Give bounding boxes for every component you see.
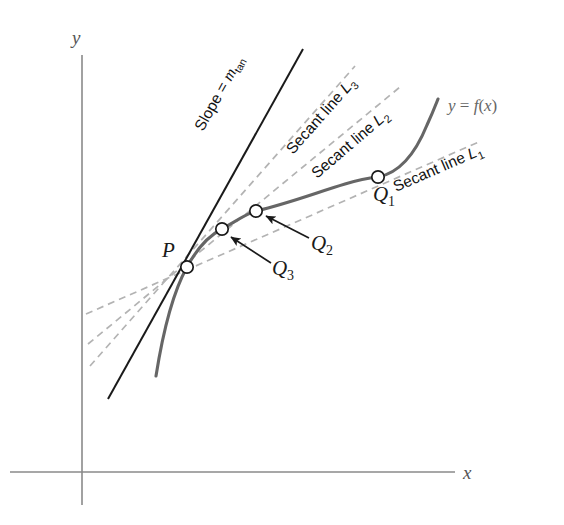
axes-group: y x: [10, 27, 472, 505]
point-Q2-letter: Q: [311, 231, 326, 255]
point-labels-group: P Q 1 Q 2 Q 3: [161, 182, 395, 283]
leader-arrows-group: [231, 216, 309, 263]
point-Q3-marker: [216, 223, 228, 235]
slope-label-group: Slope = mtan: [191, 52, 249, 135]
slope-label-text: Slope = mtan: [191, 52, 249, 135]
x-axis-label: x: [462, 462, 472, 483]
point-Q3-subscript: 3: [287, 268, 294, 283]
point-Q2-subscript: 2: [326, 243, 333, 258]
curve-label-text: y = f(x): [446, 96, 497, 115]
point-Q3-label: Q 3: [272, 256, 294, 283]
point-Q2-label: Q 2: [311, 231, 333, 258]
y-axis-label: y: [70, 27, 81, 48]
secant-L1-label-text: Secant line L1: [390, 141, 486, 198]
point-P-label: P: [161, 238, 175, 262]
point-Q3-letter: Q: [272, 256, 287, 280]
arrow-to-Q2: [266, 216, 309, 238]
point-Q2-marker: [250, 205, 262, 217]
curve-label-group: y = f(x): [446, 96, 497, 115]
secant-L1-label-group: Secant line L1: [390, 141, 486, 198]
point-Q1-label: Q 1: [373, 182, 395, 209]
secant-lines-group: [86, 66, 481, 366]
point-P-marker: [181, 261, 193, 273]
point-Q1-subscript: 1: [388, 194, 395, 209]
secant-tangent-diagram: y x P Q 1 Q 2: [0, 0, 564, 525]
point-Q1-letter: Q: [373, 182, 388, 206]
